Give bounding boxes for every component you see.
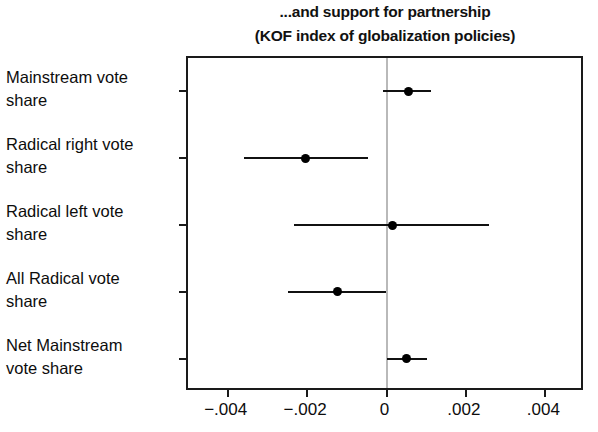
category-label-line: share [6, 156, 182, 179]
x-axis-tick-labels: −.004−.0020.002.004 [186, 399, 583, 429]
plot-area [186, 56, 583, 390]
category-label-line: vote share [6, 357, 182, 380]
x-axis-tick-label: −.002 [284, 399, 327, 421]
x-axis-tick-label: −.004 [204, 399, 247, 421]
x-axis-tick [227, 388, 229, 397]
category-label-line: share [6, 290, 182, 313]
x-axis-tick [544, 388, 546, 397]
x-axis-tick-label: .002 [447, 399, 480, 421]
category-label-line: share [6, 89, 182, 112]
x-axis-tick [386, 388, 388, 397]
y-axis-tick [179, 224, 188, 226]
zero-reference-line [386, 58, 388, 388]
category-label-line: Radical left vote [6, 200, 182, 223]
chart-title: ...and support for partnership [186, 0, 584, 24]
category-label-line: Net Mainstream [6, 334, 182, 357]
x-axis-tick-label: 0 [380, 399, 389, 421]
category-label: Mainstream voteshare [6, 66, 182, 112]
category-label: Radical left voteshare [6, 200, 182, 246]
point-estimate-marker [388, 221, 397, 230]
x-axis-tick-label: .004 [527, 399, 560, 421]
category-label: Net Mainstreamvote share [6, 334, 182, 380]
point-estimate-marker [404, 87, 413, 96]
point-estimate-marker [301, 154, 310, 163]
y-axis-tick [179, 358, 188, 360]
category-label-line: Radical right vote [6, 133, 182, 156]
x-axis-tick [306, 388, 308, 397]
y-axis-tick [179, 90, 188, 92]
category-label: All Radical voteshare [6, 267, 182, 313]
category-label-line: Mainstream vote [6, 66, 182, 89]
chart-title-block: ...and support for partnership (KOF inde… [186, 0, 584, 48]
category-axis-labels: Mainstream voteshareRadical right votesh… [6, 56, 182, 390]
coefficient-plot-figure: ...and support for partnership (KOF inde… [0, 0, 598, 432]
y-axis-tick [179, 291, 188, 293]
point-estimate-marker [402, 354, 411, 363]
y-axis-tick [179, 157, 188, 159]
category-label-line: share [6, 223, 182, 246]
category-label-line: All Radical vote [6, 267, 182, 290]
category-label: Radical right voteshare [6, 133, 182, 179]
x-axis-tick [465, 388, 467, 397]
point-estimate-marker [333, 287, 342, 296]
chart-subtitle: (KOF index of globalization policies) [186, 24, 584, 48]
